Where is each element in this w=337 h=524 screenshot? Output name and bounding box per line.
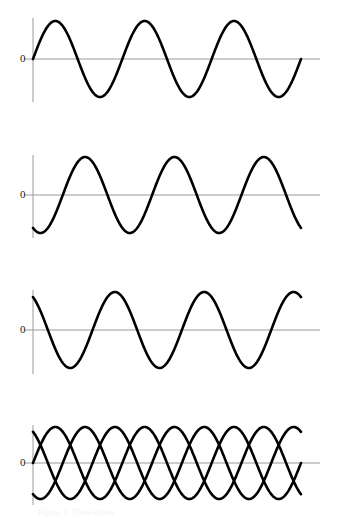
combined-plot [0,409,337,524]
panel-phase-c: 0 [0,271,337,396]
zero-axis-label: 0 [20,189,26,200]
phase-c-axes [24,290,320,374]
phase-c-plot [0,271,337,396]
panel-phase-b: 0 [0,136,337,261]
phase-b-plot [0,136,337,261]
zero-axis-label: 0 [20,53,26,64]
panel-combined: 0 [0,409,337,524]
panel-phase-a: 0 [0,0,337,130]
zero-axis-label: 0 [20,324,26,335]
waveform-figure: 0 0 0 0 [0,0,337,524]
figure-caption: Figure 1: Three-phase [38,508,115,517]
phase-a-plot [0,0,337,130]
zero-axis-label: 0 [20,457,26,468]
phase-a-axes [24,18,320,102]
